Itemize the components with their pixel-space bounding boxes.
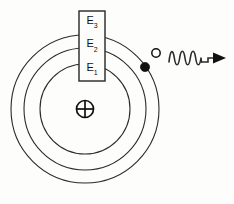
energy-level-label-box: [79, 11, 105, 81]
diagram-canvas: [0, 0, 234, 204]
electron-group: [140, 49, 160, 72]
photon-arrow-head-icon: [213, 53, 226, 64]
electron-vacancy-hollow: [152, 49, 160, 57]
emitted-photon-group: [169, 51, 226, 65]
bohr-atom-diagram: E3 E2 E1: [0, 0, 234, 204]
electron-excited-filled: [140, 62, 149, 71]
photon-wave-icon: [169, 51, 202, 65]
nucleus-group: [77, 101, 94, 118]
